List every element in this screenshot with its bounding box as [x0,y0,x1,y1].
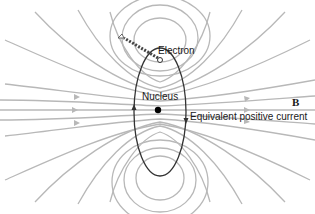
diagram-canvas: Electron Nucleus Equivalent positive cur… [0,0,315,214]
nucleus-label: Nucleus [142,92,178,102]
electron-label: Electron [158,46,195,56]
field-label: B [292,97,299,108]
electron-dot [158,58,163,63]
current-label: Equivalent positive current [190,112,307,122]
field-lines-figure [0,0,315,214]
nucleus-dot [155,107,161,113]
